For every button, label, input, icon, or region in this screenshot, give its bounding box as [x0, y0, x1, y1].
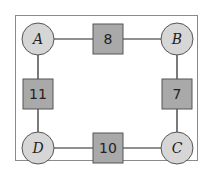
node-label-c: C	[172, 140, 183, 156]
weight-box-b-c: 7	[162, 79, 192, 109]
weight-label-d-a: 11	[29, 86, 47, 102]
weight-label-b-c: 7	[173, 86, 182, 102]
weight-label-c-d: 10	[99, 140, 117, 156]
weight-box-d-a: 11	[23, 79, 53, 109]
node-b: B	[161, 23, 193, 55]
graph-canvas: 8 7 10 11 A B C D	[0, 0, 212, 172]
weight-box-a-b: 8	[93, 24, 123, 54]
weight-box-c-d: 10	[93, 133, 123, 163]
weight-label-a-b: 8	[104, 31, 113, 47]
node-label-a: A	[31, 31, 43, 47]
graph-diagram: 8 7 10 11 A B C D	[0, 0, 212, 172]
node-label-d: D	[31, 140, 43, 156]
node-c: C	[161, 132, 193, 164]
node-d: D	[22, 132, 54, 164]
node-label-b: B	[171, 31, 182, 47]
node-a: A	[22, 23, 54, 55]
